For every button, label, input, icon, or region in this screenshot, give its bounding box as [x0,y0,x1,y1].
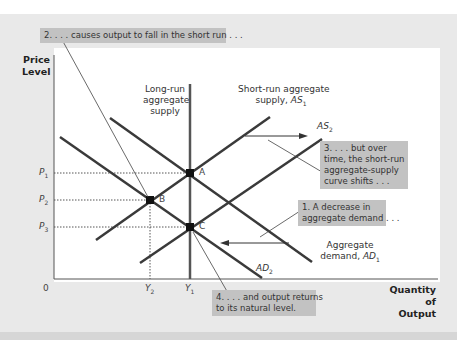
as2-label: AS2 [317,121,333,135]
note-4-line2: to its natural level. [216,303,312,314]
p1-label: P1 [39,167,48,179]
ad1-label-line1: Aggregate [318,240,382,251]
lras-label: Long-run aggregate supply [143,84,187,117]
lras-label-line2: aggregate [143,95,187,106]
note-3-line3: aggregate-supply [324,165,404,176]
note-1-decrease: 1. A decrease in aggregate demand . . . [298,200,386,226]
arrow-right-icon [299,133,308,139]
note-3-shift: 3. . . . but over time, the short-run ag… [320,141,408,189]
point-a-marker [186,169,194,177]
origin-label: 0 [43,283,49,293]
note-1-line1: 1. A decrease in [302,202,382,213]
ad2-label: AD2 [256,263,273,277]
ad1-curve [110,118,312,262]
arrow-left-icon [220,240,229,246]
p3-label: P3 [39,221,48,233]
y-axis-title: Price Level [22,54,50,78]
lras-label-line3: supply [143,106,187,117]
point-b-marker [146,196,154,204]
note-3-line2: time, the short-run [324,154,404,165]
as1-label-line1: Short-run aggregate [238,84,324,95]
note-3-line1: 3. . . . but over [324,143,404,154]
as1-label-line2: supply, AS1 [238,95,324,109]
note-4-returns: 4. . . . and output returns to its natur… [212,290,316,316]
lras-label-line1: Long-run [143,84,187,95]
note-3-line4: curve shifts . . . [324,176,404,187]
note-4-line1: 4. . . . and output returns [216,292,312,303]
point-c-marker [186,223,194,231]
y-axis-title-line1: Price [22,54,50,66]
as1-label: Short-run aggregate supply, AS1 [238,84,324,109]
note-1-line2: aggregate demand . . . [302,213,382,224]
x-axis-title-line1: Quantity of [380,284,436,308]
p2-label: P2 [39,194,48,206]
x-axis-title-line2: Output [380,308,436,320]
y2-label: Y2 [145,283,154,295]
y1-label: Y1 [185,283,194,295]
y-axis-title-line2: Level [22,66,50,78]
point-c-label: C [199,221,205,231]
point-b-label: B [159,194,165,204]
ad1-label: Aggregate demand, AD1 [318,240,382,265]
note-2-short-run: 2. . . . causes output to fall in the sh… [40,28,226,43]
x-axis-title: Quantity of Output [380,284,436,320]
ad1-label-line2: demand, AD1 [318,251,382,265]
ad2-curve [60,137,262,278]
point-a-label: A [199,167,205,177]
